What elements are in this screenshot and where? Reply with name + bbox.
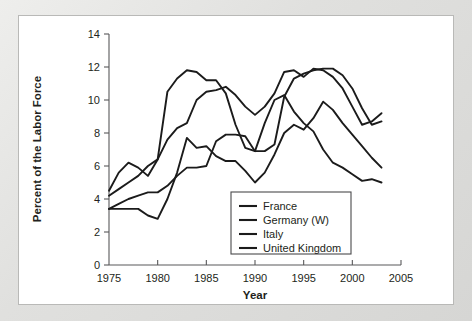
x-axis-ticks	[158, 260, 401, 265]
legend-label-2: Germany (W)	[263, 214, 329, 226]
chart-card: 02468101214 1975198019851990199520002005…	[18, 15, 454, 305]
x-axis-tick-labels: 1975198019851990199520002005	[97, 272, 413, 284]
y-axis-ticks	[104, 34, 109, 265]
series-line-united-kingdom	[109, 70, 382, 190]
y-axis-title: Percent of the Labor Force	[31, 76, 43, 222]
y-tick-label: 14	[88, 28, 100, 40]
legend-label-4: United Kingdom	[263, 242, 341, 254]
line-chart: 02468101214 1975198019851990199520002005…	[19, 16, 455, 306]
y-tick-label: 8	[94, 127, 100, 139]
x-tick-label: 1985	[194, 272, 218, 284]
legend-label-1: France	[263, 200, 297, 212]
series-line-italy	[109, 69, 382, 209]
y-axis-tick-labels: 02468101214	[88, 28, 100, 271]
y-tick-label: 12	[88, 61, 100, 73]
y-tick-label: 6	[94, 160, 100, 172]
series-line-france	[109, 69, 382, 196]
legend-label-3: Italy	[263, 228, 284, 240]
x-axis-title: Year	[243, 289, 268, 301]
x-tick-label: 1980	[145, 272, 169, 284]
y-tick-label: 0	[94, 259, 100, 271]
y-tick-label: 10	[88, 94, 100, 106]
x-tick-label: 1995	[291, 272, 315, 284]
x-tick-label: 2005	[389, 272, 413, 284]
x-tick-label: 2000	[340, 272, 364, 284]
chart-plot-area: 02468101214 1975198019851990199520002005…	[19, 16, 455, 306]
image-frame: 02468101214 1975198019851990199520002005…	[0, 0, 472, 321]
x-tick-label: 1990	[243, 272, 267, 284]
chart-legend: FranceGermany (W)ItalyUnited Kingdom	[231, 192, 351, 254]
x-tick-label: 1975	[97, 272, 121, 284]
y-tick-label: 4	[94, 193, 100, 205]
y-tick-label: 2	[94, 226, 100, 238]
